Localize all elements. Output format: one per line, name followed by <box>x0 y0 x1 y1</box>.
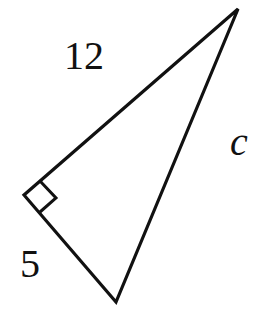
hypotenuse-label-c: c <box>230 122 248 162</box>
right-angle-marker <box>40 181 56 212</box>
triangle <box>24 9 238 302</box>
triangle-diagram: 12 5 c <box>0 0 266 315</box>
leg-label-12: 12 <box>64 36 104 76</box>
leg-label-5: 5 <box>20 244 40 284</box>
